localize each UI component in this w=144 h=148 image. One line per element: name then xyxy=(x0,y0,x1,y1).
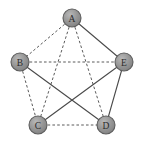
node-label-a: A xyxy=(69,14,76,24)
node-b: B xyxy=(11,53,29,71)
edge-a-e xyxy=(72,18,124,62)
edge-d-e xyxy=(106,62,124,125)
edge-layer xyxy=(20,18,124,125)
node-c: C xyxy=(29,116,47,134)
node-label-b: B xyxy=(17,58,23,68)
edge-c-e xyxy=(38,62,124,125)
node-label-d: D xyxy=(103,121,110,131)
node-d: D xyxy=(97,116,115,134)
graph-figure: ABECD xyxy=(0,0,144,148)
edge-b-d xyxy=(20,62,106,125)
node-a: A xyxy=(63,9,81,27)
node-layer: ABECD xyxy=(11,9,133,134)
edge-a-d xyxy=(72,18,106,125)
node-label-e: E xyxy=(121,58,127,68)
node-label-c: C xyxy=(35,121,41,131)
graph-canvas: ABECD xyxy=(0,0,144,148)
edge-b-c xyxy=(20,62,38,125)
edge-a-c xyxy=(38,18,72,125)
node-e: E xyxy=(115,53,133,71)
edge-a-b xyxy=(20,18,72,62)
